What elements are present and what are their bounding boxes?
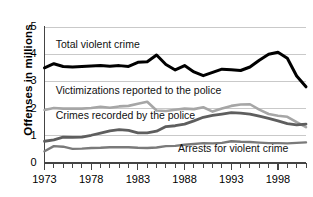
x-tick-label-1993: 1993 [211, 174, 251, 185]
y-tick-label-3: 3 [21, 75, 37, 86]
y-tick-label-4: 4 [21, 48, 37, 59]
violent-crime-line-chart: Offenses in millions 012345 197319781983… [0, 0, 313, 197]
data-series [45, 52, 307, 151]
x-tick-label-1988: 1988 [165, 174, 205, 185]
y-tick-label-0: 0 [21, 157, 37, 168]
y-tick-label-5: 5 [21, 21, 37, 32]
annotation-victimizations-reported-to-the-police: Victimizations reported to the police [56, 85, 222, 96]
y-tick-label-2: 2 [21, 103, 37, 114]
annotation-total-violent-crime: Total violent crime [56, 39, 140, 50]
x-tick-label-1978: 1978 [71, 174, 111, 185]
annotation-crimes-recorded-by-the-police: Crimes recorded by the police [56, 110, 195, 121]
x-axis-tickmarks [45, 163, 307, 170]
y-tick-label-1: 1 [21, 130, 37, 141]
x-tick-label-1983: 1983 [118, 174, 158, 185]
annotation-arrests-for-violent-crime: Arrests for violent crime [178, 143, 288, 154]
plot-canvas [0, 0, 313, 197]
x-tick-label-1973: 1973 [25, 174, 65, 185]
x-tick-label-1998: 1998 [258, 174, 298, 185]
